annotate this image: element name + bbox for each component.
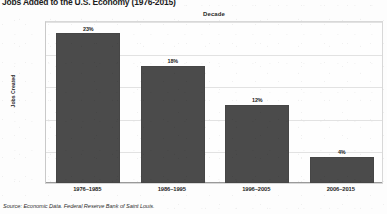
- bar-slot: 12%: [215, 22, 300, 183]
- bar-slot: 4%: [300, 22, 385, 183]
- bar-value-label: 12%: [215, 97, 300, 103]
- x-axis-title: Decade: [45, 11, 383, 17]
- bar[interactable]: [310, 157, 374, 183]
- bar-value-label: 18%: [131, 58, 216, 64]
- chart-title: Jobs Added to the U.S. Economy (1976-201…: [2, 0, 176, 7]
- source-note: Source: Economic Data. Federal Reserve B…: [3, 203, 155, 209]
- x-axis-tick-label: 1976–1985: [45, 186, 130, 192]
- bar-slot: 18%: [131, 22, 216, 183]
- x-axis-tick-label: 2006–2015: [299, 186, 384, 192]
- chart-figure: Jobs Added to the U.S. Economy (1976-201…: [0, 0, 387, 214]
- x-axis-tick-label: 1986–1995: [130, 186, 215, 192]
- bar[interactable]: [56, 33, 120, 183]
- plot-area: 23%18%12%4%: [45, 21, 383, 184]
- y-axis-title: Jobs Created: [10, 61, 16, 121]
- bar-slot: 23%: [46, 22, 131, 183]
- bar-value-label: 4%: [300, 149, 385, 155]
- bar[interactable]: [225, 105, 289, 183]
- x-axis-tick-label: 1996–2005: [214, 186, 299, 192]
- bar[interactable]: [141, 66, 205, 183]
- bar-value-label: 23%: [46, 26, 131, 32]
